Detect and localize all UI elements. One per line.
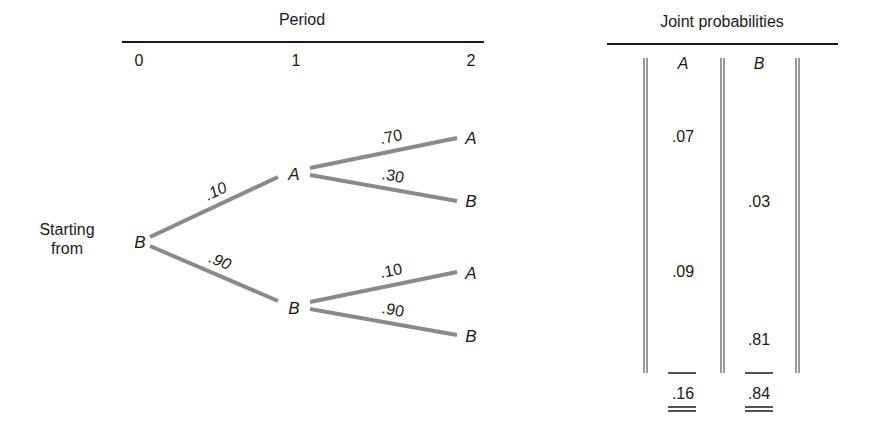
total-b: .84: [748, 385, 770, 402]
col-header-b: B: [754, 55, 765, 72]
prob-b-b: .90: [381, 299, 406, 320]
prob-root-b: .90: [207, 249, 234, 273]
node-ba: A: [464, 264, 476, 283]
joint-header: Joint probabilities: [660, 13, 784, 30]
start-label-line1: Starting: [39, 221, 94, 238]
joint-ab: .03: [748, 193, 770, 210]
tree-branches: [150, 138, 457, 335]
total-a: .16: [672, 385, 694, 402]
prob-a-b: .30: [381, 165, 406, 186]
joint-aa: .07: [672, 128, 694, 145]
start-label-line2: from: [51, 240, 83, 257]
table-column-lines: [644, 58, 799, 373]
node-aa: A: [464, 129, 476, 148]
period-header: Period: [279, 11, 325, 28]
node-ab: B: [465, 192, 476, 211]
node-level1-b: B: [288, 299, 299, 318]
period-0: 0: [135, 52, 144, 69]
prob-a-a: .70: [378, 126, 403, 147]
joint-ba: .09: [672, 263, 694, 280]
node-bb: B: [465, 327, 476, 346]
col-header-a: A: [677, 55, 689, 72]
node-root: B: [134, 233, 145, 252]
period-2: 2: [467, 52, 476, 69]
joint-bb: .81: [748, 331, 770, 348]
probability-tree-diagram: Period 0 1 2 Starting from B A B A B A B…: [0, 0, 869, 421]
node-level1-a: A: [287, 165, 299, 184]
period-1: 1: [292, 52, 301, 69]
prob-b-a: .10: [378, 260, 403, 281]
